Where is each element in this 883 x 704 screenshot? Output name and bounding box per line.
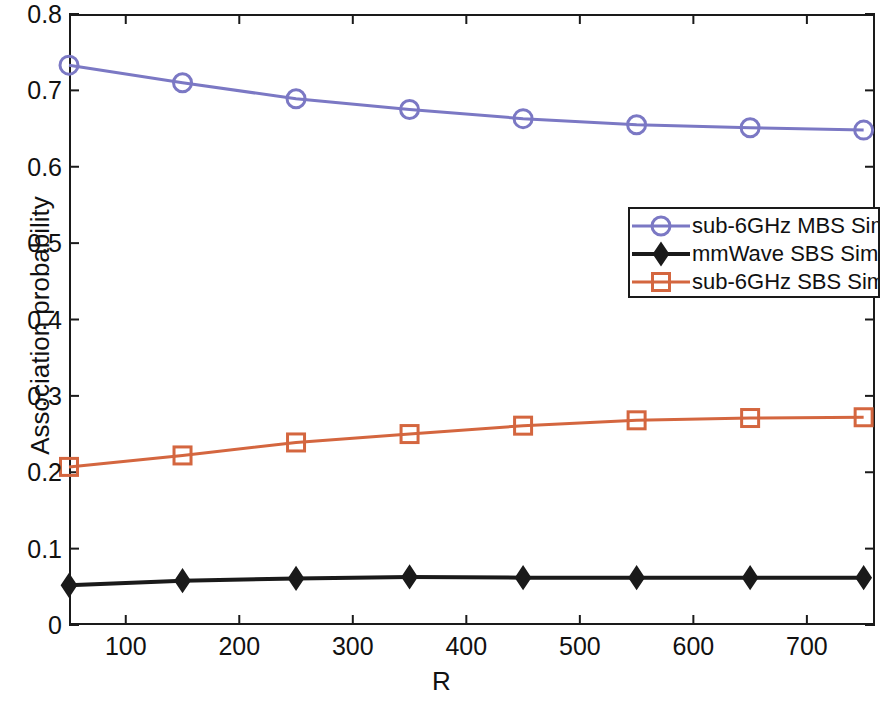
plot-area <box>69 14 875 625</box>
association-probability-chart: 00.10.20.30.40.50.60.70.8 10020030040050… <box>0 0 883 704</box>
x-tick-label: 100 <box>81 634 171 659</box>
y-axis-title: Association probability <box>25 116 56 536</box>
x-tick-label: 300 <box>308 634 398 659</box>
legend-marker-square-icon <box>630 268 692 296</box>
legend-label: sub-6GHz SBS Sim <box>692 269 880 295</box>
chart-legend: sub-6GHz MBS SimmmWave SBS Simsub-6GHz S… <box>628 207 880 298</box>
y-tick-label: 0.1 <box>6 536 62 561</box>
x-tick-label: 500 <box>535 634 625 659</box>
x-tick-label: 200 <box>194 634 284 659</box>
legend-entry: sub-6GHz SBS Sim <box>630 268 878 296</box>
y-tick-label: 0.7 <box>6 78 62 103</box>
y-tick-label: 0.8 <box>6 2 62 27</box>
legend-label: sub-6GHz MBS Sim <box>692 213 880 239</box>
x-axis-title: R <box>0 666 883 697</box>
x-axis-tick-labels: 100200300400500600700 <box>0 634 883 668</box>
x-tick-label: 400 <box>421 634 511 659</box>
x-tick-label: 700 <box>762 634 852 659</box>
legend-marker-circle-icon <box>630 212 692 240</box>
legend-entry: sub-6GHz MBS Sim <box>630 212 878 240</box>
x-tick-label: 600 <box>648 634 738 659</box>
legend-label: mmWave SBS Sim <box>692 241 878 267</box>
legend-marker-diamond-icon <box>630 240 692 268</box>
legend-entry: mmWave SBS Sim <box>630 240 878 268</box>
